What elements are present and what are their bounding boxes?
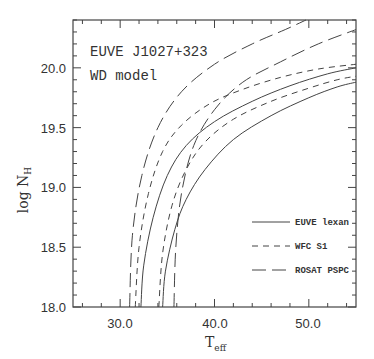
x-axis-label: Teff [205, 334, 227, 353]
xtick-label-30: 30.0 [107, 316, 132, 331]
y-axis-label-main: log N [15, 175, 31, 214]
legend: EUVE lexan WFC S1 ROSAT PSPC [252, 218, 350, 276]
ytick-label-19.5: 19.5 [41, 121, 66, 136]
legend-label-euve: EUVE lexan [295, 218, 349, 228]
ytick-label-19.0: 19.0 [41, 180, 66, 195]
y-axis-label-sub: H [23, 167, 33, 175]
curve-long-dash-4 [130, 20, 306, 307]
axis-ticks [73, 20, 356, 307]
annotation-object-name: EUVE J1027+323 [90, 44, 208, 60]
nh-vs-teff-chart: 18.0 18.5 19.0 19.5 20.0 30.0 40.0 50.0 … [0, 0, 374, 359]
annotation-model: WD model [90, 68, 157, 84]
y-axis-label: log NH [15, 167, 33, 214]
curves [130, 20, 356, 307]
ytick-label-20.0: 20.0 [41, 61, 66, 76]
legend-label-wfc: WFC S1 [295, 242, 328, 252]
x-axis-label-sub: eff [214, 343, 226, 353]
plot-frame [73, 20, 356, 307]
ytick-label-18.0: 18.0 [41, 300, 66, 315]
xtick-label-50: 50.0 [295, 316, 320, 331]
ytick-label-18.5: 18.5 [41, 240, 66, 255]
legend-label-rosat: ROSAT PSPC [295, 266, 350, 276]
xtick-label-40: 40.0 [202, 316, 227, 331]
